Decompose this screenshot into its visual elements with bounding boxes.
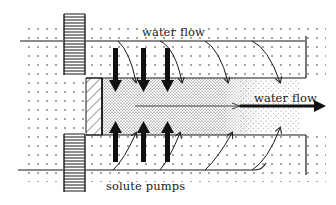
hatched-wall xyxy=(86,78,102,135)
label-water-flow-right: water flow xyxy=(254,91,317,105)
countercurrent-diagram: water flow water flow solute pumps xyxy=(0,0,336,205)
label-water-flow-top: water flow xyxy=(142,25,205,39)
label-solute-pumps: solute pumps xyxy=(106,179,185,193)
coil-bottom xyxy=(63,133,86,195)
coil-top xyxy=(63,12,86,78)
